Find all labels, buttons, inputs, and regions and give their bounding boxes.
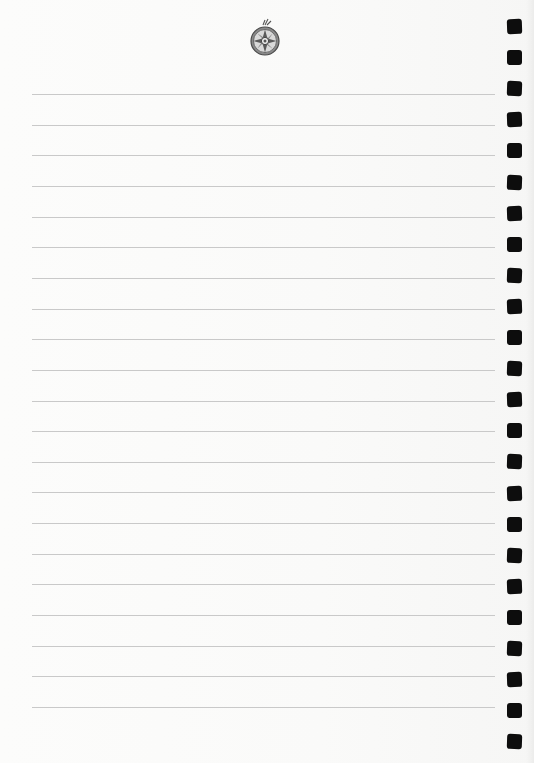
binding-hole [507, 734, 523, 750]
binding-hole [507, 19, 523, 35]
binding-hole [507, 112, 523, 128]
binding-hole [507, 206, 523, 222]
binding-hole [507, 486, 523, 502]
binding-hole [507, 548, 523, 564]
binding-hole [507, 703, 522, 718]
binding-hole [507, 517, 522, 532]
binding-hole [507, 423, 522, 438]
ruled-line [32, 370, 495, 371]
ruled-line [32, 554, 495, 555]
ruled-line [32, 339, 495, 340]
ruled-line [32, 278, 495, 279]
ruled-line [32, 431, 495, 432]
binding-hole [507, 579, 523, 595]
compass-rose-ornament-icon [247, 17, 283, 57]
binding-hole [507, 50, 522, 65]
binding-hole [507, 641, 523, 657]
ruled-line [32, 401, 495, 402]
binding-hole [507, 237, 522, 252]
ruled-line [32, 584, 495, 585]
binding-hole [507, 175, 523, 191]
ruled-line [32, 462, 495, 463]
ruled-line [32, 615, 495, 616]
binding-hole [507, 392, 523, 408]
ruled-line [32, 523, 495, 524]
binding-hole [507, 672, 523, 688]
binding-hole [507, 454, 523, 470]
notebook-page [0, 0, 534, 763]
ruled-line [32, 125, 495, 126]
binding-hole [507, 268, 523, 284]
ruled-line [32, 94, 495, 95]
ruled-line [32, 492, 495, 493]
ruled-line [32, 309, 495, 310]
binding-hole [507, 81, 523, 97]
ruled-line [32, 247, 495, 248]
ruled-line [32, 676, 495, 677]
ruled-line [32, 646, 495, 647]
ruled-line [32, 186, 495, 187]
ruled-line [32, 155, 495, 156]
ruled-line [32, 707, 495, 708]
binding-hole [507, 361, 523, 377]
binding-hole [507, 330, 522, 345]
binding-hole [507, 299, 523, 315]
binding-hole [507, 610, 522, 625]
page-edge-shadow [526, 0, 534, 763]
binding-hole [507, 143, 522, 158]
ruled-line [32, 217, 495, 218]
